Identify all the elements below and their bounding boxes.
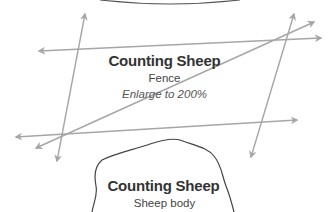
- body-card-subtitle: Sheep body: [0, 197, 329, 209]
- arrow-top-horizontal: [39, 38, 321, 51]
- fence-card-title: Counting Sheep: [0, 52, 329, 69]
- top-oval-outline: [100, 0, 240, 4]
- arrow-right-vertical: [251, 14, 294, 157]
- fence-card-note: Enlarge to 200%: [0, 88, 329, 100]
- body-card-title: Counting Sheep: [0, 177, 328, 194]
- arrow-bottom-horizontal: [16, 120, 297, 137]
- fence-card-subtitle: Fence: [0, 72, 329, 84]
